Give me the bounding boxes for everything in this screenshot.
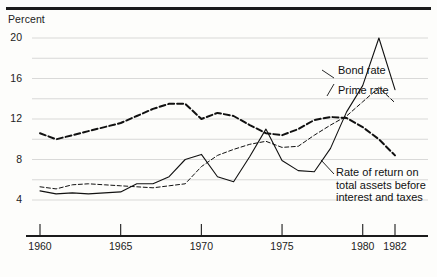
x-tick-label: 1965: [109, 240, 132, 252]
chart-figure: Percent 48121620 19601965197019751980198…: [0, 0, 437, 277]
x-tick-marks-group: [40, 224, 395, 235]
leader-line-bond-rate: [322, 70, 334, 78]
plot-canvas: [0, 0, 437, 277]
x-tick-label: 1970: [190, 240, 213, 252]
leader-line-rate-of-return: [321, 160, 334, 174]
y-tick-label: 12: [0, 112, 22, 124]
leader-line-prime-rate: [327, 84, 334, 96]
y-tick-label: 16: [0, 72, 22, 84]
y-tick-label: 4: [0, 193, 22, 205]
annotation-rate-of-return: Rate of return on total assets before in…: [336, 166, 426, 204]
x-tick-label: 1980: [351, 240, 374, 252]
series-line-0: [40, 104, 395, 156]
y-tick-label: 8: [0, 153, 22, 165]
annotation-bond-rate: Bond rate: [338, 64, 386, 77]
x-tick-label: 1975: [270, 240, 293, 252]
x-tick-label: 1960: [28, 240, 51, 252]
y-tick-label: 20: [0, 31, 22, 43]
x-tick-label: 1982: [383, 240, 406, 252]
annotation-prime-rate: Prime rate: [338, 84, 389, 97]
